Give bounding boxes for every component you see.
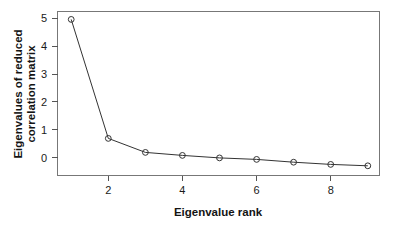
chart-canvas: 0 1 2 3 4 5 (0, 0, 397, 230)
y-axis-title-line1: Eigenvalues of reduced (12, 29, 24, 158)
y-tick-label-5: 5 (41, 12, 47, 24)
y-tick-label-1: 1 (41, 124, 47, 136)
scree-plot-figure: 0 1 2 3 4 5 (0, 0, 397, 230)
x-tick-label-8: 8 (328, 184, 334, 196)
x-tick-label-6: 6 (254, 184, 260, 196)
y-axis-title-line2: correlation matrix (25, 45, 37, 143)
y-tick-label-0: 0 (41, 152, 47, 164)
y-tick-label-3: 3 (41, 68, 47, 80)
y-tick-label-4: 4 (41, 40, 47, 52)
x-tick-label-4: 4 (179, 184, 185, 196)
x-axis-title: Eigenvalue rank (174, 206, 263, 218)
y-tick-label-2: 2 (41, 96, 47, 108)
chart-background (0, 0, 397, 230)
x-tick-label-2: 2 (105, 184, 111, 196)
